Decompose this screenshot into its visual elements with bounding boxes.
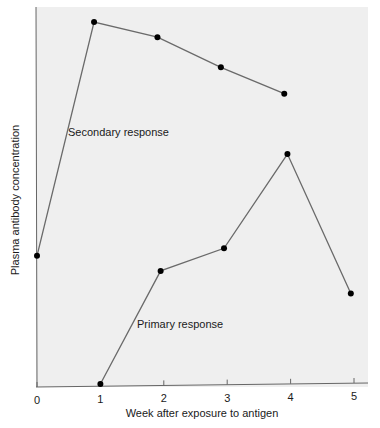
data-point (154, 34, 160, 40)
data-point (348, 291, 354, 297)
data-point (221, 245, 227, 251)
x-tick-label: 2 (161, 392, 167, 404)
data-point (97, 381, 103, 387)
plot-area (36, 7, 368, 387)
data-point (158, 268, 164, 274)
data-point (281, 91, 287, 97)
x-tick-label: 4 (288, 391, 294, 403)
secondary-response-label: Secondary response (68, 126, 169, 138)
data-point (218, 64, 224, 70)
x-tick-label: 3 (224, 392, 230, 404)
x-axis-label: Week after exposure to antigen (126, 407, 279, 419)
x-tick-label: 1 (97, 393, 103, 405)
x-tick-label: 5 (351, 390, 357, 402)
primary-response-label: Primary response (137, 318, 223, 330)
antibody-response-chart: 012345 Secondary response Primary respon… (0, 0, 380, 428)
y-axis-label: Plasma antibody concentration (9, 125, 21, 275)
data-point (34, 253, 40, 259)
data-point (91, 19, 97, 25)
data-point (284, 151, 290, 157)
x-tick-label: 0 (34, 394, 40, 406)
